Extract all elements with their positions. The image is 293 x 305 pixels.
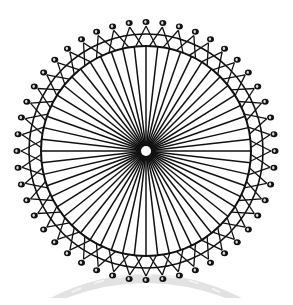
lattice-strut (97, 244, 99, 267)
lattice-strut (38, 89, 61, 90)
pod-icon (270, 131, 277, 137)
pod-icon (267, 181, 274, 187)
pod-icon (272, 148, 279, 154)
lattice-strut (38, 89, 51, 108)
lattice-strut (231, 212, 254, 213)
lattice-strut (218, 228, 222, 251)
pod-icon (176, 23, 183, 29)
pod-icon (254, 213, 261, 219)
lattice-strut (231, 89, 254, 90)
lattice-strut (244, 183, 266, 188)
lattice-strut (178, 30, 183, 52)
ferris-wheel-graphic (0, 0, 293, 305)
pod-icon (126, 20, 133, 26)
pod-icon (207, 36, 214, 42)
lattice-strut (178, 249, 183, 271)
lattice-strut (22, 127, 44, 135)
lattice-strut (70, 228, 74, 251)
pod-icon (176, 273, 183, 279)
pod-icon (207, 260, 214, 266)
lattice-strut (242, 89, 255, 108)
lattice-strut (223, 75, 246, 79)
lattice-strut (47, 223, 70, 227)
pod-icon (234, 239, 241, 245)
pod-icon (262, 99, 269, 105)
pod-icon (51, 239, 58, 245)
lattice-strut (84, 247, 103, 260)
pod-icon (109, 273, 116, 279)
pod-icon (15, 131, 22, 137)
lattice-strut (218, 52, 222, 75)
lattice-strut (122, 27, 130, 49)
pod-icon (192, 267, 199, 273)
pod-icon (31, 213, 38, 219)
lattice-strut (38, 212, 61, 213)
pod-icon (64, 250, 71, 256)
lattice-strut (109, 249, 114, 271)
lattice-strut (194, 244, 196, 267)
pod-icon (245, 227, 252, 233)
lattice-strut (239, 102, 262, 104)
lattice-strut (162, 253, 170, 275)
pod-icon (143, 19, 150, 25)
lattice-strut (84, 43, 85, 66)
lattice-strut (242, 194, 255, 213)
lattice-strut (31, 199, 54, 201)
lattice-strut (97, 36, 99, 59)
pod-icon (192, 29, 199, 35)
lattice-strut (250, 119, 267, 134)
pod-icon (51, 57, 58, 63)
lattice-strut (25, 119, 42, 134)
lattice-strut (70, 52, 74, 75)
pod-icon (18, 181, 25, 187)
pod-icon (245, 69, 252, 75)
pod-icon (93, 29, 100, 35)
lattice-strut (109, 30, 114, 52)
lattice-strut (239, 199, 262, 201)
lattice-strut (114, 255, 129, 272)
pod-icon (126, 276, 133, 282)
spoke (72, 77, 146, 151)
lattice-strut (250, 168, 267, 183)
pod-icon (15, 165, 22, 171)
spoke (72, 151, 146, 225)
pod-icon (254, 84, 261, 90)
pod-icon (31, 84, 38, 90)
ferris-wheel-illustration: Ferris wheel (0, 0, 293, 305)
lattice-strut (207, 43, 208, 66)
lattice-strut (248, 127, 270, 135)
spoke (146, 151, 220, 225)
pod-icon (78, 260, 85, 266)
lattice-strut (38, 194, 51, 213)
pod-icon (221, 46, 228, 52)
pod-icon (109, 23, 116, 29)
pod-icon (64, 46, 71, 52)
pod-icon (18, 115, 25, 121)
lattice-strut (25, 183, 47, 188)
pod-icon (14, 148, 21, 154)
lattice-strut (47, 75, 70, 79)
pod-icon (159, 276, 166, 282)
pod-icon (40, 227, 47, 233)
lattice-strut (189, 247, 208, 260)
pod-icon (159, 20, 166, 26)
pod-icon (23, 197, 30, 203)
lattice-strut (84, 236, 85, 259)
pod-icon (267, 115, 274, 121)
lattice-strut (114, 30, 129, 47)
lattice-strut (194, 36, 196, 59)
lattice-strut (25, 114, 47, 119)
spoke (146, 77, 220, 151)
pod-icon (23, 99, 30, 105)
lattice-strut (248, 167, 270, 175)
hub-center (141, 146, 151, 156)
lattice-strut (207, 236, 208, 259)
pod-icon (234, 57, 241, 63)
pod-icon (221, 250, 228, 256)
pod-icon (40, 69, 47, 75)
lattice-strut (223, 223, 246, 227)
lattice-strut (122, 253, 130, 275)
pod-icon (262, 197, 269, 203)
lattice-strut (163, 30, 178, 47)
lattice-strut (163, 255, 178, 272)
